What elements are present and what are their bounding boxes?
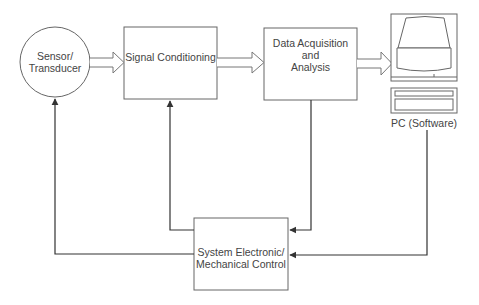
sensor-label-line1: Sensor/	[37, 50, 73, 62]
arrow-sensor-to-signal	[90, 52, 124, 73]
line-control-to-sensor	[55, 99, 194, 254]
data-acquisition-line1: Data Acquisition and	[264, 37, 357, 61]
signal-conditioning-text: Signal Conditioning	[125, 51, 215, 63]
arrow-daq-to-pc	[357, 52, 392, 75]
control-label-line2: Mechanical Control	[196, 258, 286, 270]
control-label-line1: System Electronic/	[198, 246, 285, 258]
arrow-signal-to-daq	[217, 52, 264, 73]
line-daq-to-control	[290, 100, 311, 230]
data-acquisition-label: Data Acquisition and Analysis	[264, 30, 357, 80]
pc-label: PC (Software)	[386, 116, 462, 130]
keyboard-icon	[391, 88, 457, 113]
data-acquisition-line2: Analysis	[291, 61, 330, 73]
sensor-label-line2: Transducer	[29, 62, 82, 74]
line-control-to-signal	[170, 101, 194, 230]
signal-conditioning-label: Signal Conditioning	[124, 27, 217, 99]
computer-icon	[391, 14, 457, 81]
sensor-label: Sensor/ Transducer	[20, 47, 90, 77]
pc-label-text: PC (Software)	[391, 117, 457, 129]
control-label: System Electronic/ Mechanical Control	[194, 238, 288, 278]
